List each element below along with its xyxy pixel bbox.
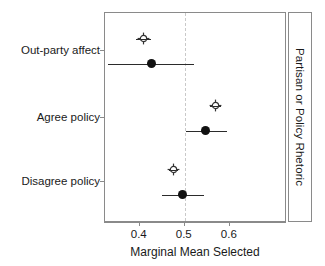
point-marker-filled (201, 126, 210, 135)
point-marker-open (137, 32, 150, 45)
x-tick-label-1: 0.5 (176, 228, 192, 240)
chart-figure: Partisan or Policy Rhetoric 0.40.50.6 Ma… (0, 0, 325, 266)
x-tick-label-0: 0.4 (131, 228, 147, 240)
point-marker-open (209, 99, 222, 112)
x-tick-label-2: 0.6 (221, 228, 237, 240)
facet-strip: Partisan or Policy Rhetoric (288, 12, 312, 222)
y-tick-label-0: Out-party affect (21, 44, 100, 56)
point-marker-open (167, 163, 180, 176)
x-axis-line (104, 222, 286, 223)
x-axis-label: Marginal Mean Selected (104, 245, 286, 259)
y-tick-1 (100, 117, 104, 118)
facet-strip-label: Partisan or Policy Rhetoric (294, 48, 306, 186)
point-marker-filled (178, 190, 187, 199)
x-tick-1 (184, 222, 185, 226)
x-tick-0 (139, 222, 140, 226)
y-tick-label-2: Disagree policy (21, 175, 100, 187)
x-tick-2 (229, 222, 230, 226)
y-tick-0 (100, 50, 104, 51)
y-tick-label-1: Agree policy (37, 111, 100, 123)
point-marker-filled (147, 59, 156, 68)
y-tick-2 (100, 181, 104, 182)
plot-panel (104, 12, 286, 222)
